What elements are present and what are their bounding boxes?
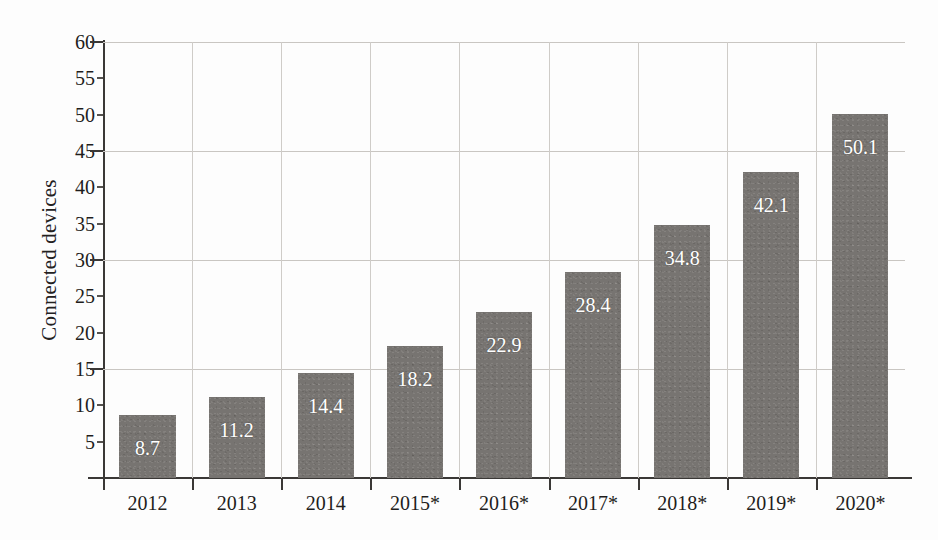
x-axis-tick-label: 2012 — [103, 492, 192, 515]
bar-value-label: 22.9 — [476, 334, 532, 357]
y-axis-tick-label: 10 — [57, 394, 95, 417]
vertical-gridline — [459, 42, 460, 478]
x-axis-tick-mark — [370, 478, 372, 490]
y-axis-tick-mark — [90, 368, 104, 370]
y-axis-tick-label: 5 — [57, 430, 95, 453]
bar: 14.4 — [298, 373, 354, 478]
y-axis-tick-labels: 51015202530354045505560 — [55, 0, 95, 540]
x-axis-tick-label: 2013 — [192, 492, 281, 515]
horizontal-gridline — [103, 151, 905, 152]
x-axis-tick-label: 2018* — [638, 492, 727, 515]
x-axis-tick-mark — [281, 478, 283, 490]
bar: 50.1 — [832, 114, 888, 478]
bar: 8.7 — [119, 415, 175, 478]
x-axis-tick-mark — [816, 478, 818, 490]
x-axis-tick-label: 2019* — [727, 492, 816, 515]
vertical-gridline — [192, 42, 193, 478]
bar-value-label: 28.4 — [565, 294, 621, 317]
bar: 28.4 — [565, 272, 621, 478]
x-axis-tick-mark — [638, 478, 640, 490]
x-axis-tick-label: 2020* — [816, 492, 905, 515]
plot-area: 8.711.214.418.222.928.434.842.150.1 — [103, 42, 905, 478]
x-axis-tick-label: 2016* — [459, 492, 548, 515]
bar-value-label: 11.2 — [209, 419, 265, 442]
y-axis-tick-label: 35 — [57, 212, 95, 235]
bar-value-label: 8.7 — [119, 437, 175, 460]
bar: 42.1 — [743, 172, 799, 478]
bar-value-label: 42.1 — [743, 194, 799, 217]
x-axis-tick-mark — [459, 478, 461, 490]
vertical-gridline — [727, 42, 728, 478]
y-axis-tick-label: 40 — [57, 176, 95, 199]
y-axis-tick-label: 20 — [57, 321, 95, 344]
x-axis-tick-label: 2014 — [281, 492, 370, 515]
vertical-gridline — [549, 42, 550, 478]
bar-chart: Connected devices 5101520253035404550556… — [0, 0, 938, 540]
bar-value-label: 14.4 — [298, 395, 354, 418]
bar: 18.2 — [387, 346, 443, 478]
x-axis-tick-mark — [727, 478, 729, 490]
horizontal-gridline — [103, 42, 905, 43]
x-axis-tick-label: 2015* — [370, 492, 459, 515]
bar-value-label: 18.2 — [387, 368, 443, 391]
y-axis-tick-label: 25 — [57, 285, 95, 308]
vertical-gridline — [370, 42, 371, 478]
x-axis-tick-mark — [549, 478, 551, 490]
y-axis-tick-label: 50 — [57, 103, 95, 126]
y-axis-tick-mark — [90, 150, 104, 152]
vertical-gridline — [638, 42, 639, 478]
y-axis-tick-mark — [90, 41, 104, 43]
vertical-gridline — [816, 42, 817, 478]
bar: 22.9 — [476, 312, 532, 478]
bar: 11.2 — [209, 397, 265, 478]
vertical-gridline — [281, 42, 282, 478]
bar-value-label: 34.8 — [654, 247, 710, 270]
bar: 34.8 — [654, 225, 710, 478]
bar-value-label: 50.1 — [832, 136, 888, 159]
y-axis-tick-label: 55 — [57, 67, 95, 90]
x-axis-tick-mark — [192, 478, 194, 490]
x-axis-tick-label: 2017* — [549, 492, 638, 515]
y-axis-tick-mark — [90, 259, 104, 261]
